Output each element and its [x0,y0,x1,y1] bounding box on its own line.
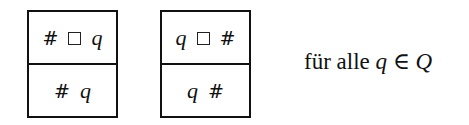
caption-variable: q [376,49,388,74]
state-variable: q [91,25,102,51]
state-variable: q [187,78,198,104]
domino-top-cell: q # [160,10,251,65]
domino-tile-2: q # q # [160,10,251,118]
blank-square-icon [197,32,210,45]
caption-set: Q [416,49,433,74]
domino-tile-1: # q # q [27,10,118,118]
hash-symbol: # [208,80,224,102]
domino-bottom-cell: # q [27,63,118,118]
hash-symbol: # [43,27,59,49]
state-variable: q [176,25,187,51]
state-variable: q [80,78,91,104]
caption: für alle q ∈ Q [304,48,432,75]
element-of-symbol: ∈ [393,49,410,74]
domino-bottom-cell: q # [160,63,251,118]
blank-square-icon [68,32,81,45]
hash-symbol: # [54,80,70,102]
hash-symbol: # [220,27,236,49]
caption-text: für alle [304,49,370,74]
domino-top-cell: # q [27,10,118,65]
